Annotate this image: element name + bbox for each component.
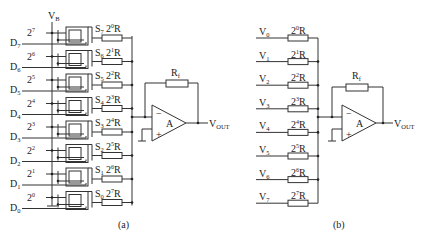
opamp-label-base: A	[356, 118, 364, 129]
data-input-label-sub: 7	[17, 42, 21, 49]
data-input-label-sub: 1	[17, 183, 20, 190]
resistor-label: 21R	[106, 47, 121, 58]
feedback-resistor-label: Rf	[352, 70, 362, 82]
data-input-label: D3	[10, 131, 20, 143]
switch-label-sub: 2	[101, 146, 104, 153]
junction-dot	[317, 131, 320, 134]
resistor-icon	[166, 80, 188, 87]
resistor-icon	[288, 153, 308, 159]
voltage-input-label: V0	[259, 26, 269, 38]
feedback-resistor-label: Rf	[171, 67, 181, 79]
switch-label-sub: 1	[101, 169, 104, 176]
weight-label: 24	[27, 98, 35, 109]
data-input-label-sub: 0	[17, 207, 20, 214]
resistor-icon	[102, 35, 122, 41]
data-input-label: D1	[10, 178, 20, 190]
resistor-icon	[102, 200, 122, 206]
resistor-label-base: R	[299, 96, 306, 107]
resistor-label: 25R	[106, 141, 121, 152]
resistor-label-base: R	[114, 164, 121, 175]
junction-dot	[131, 178, 134, 181]
data-input-label: D5	[10, 84, 20, 96]
junction-dot	[131, 131, 134, 134]
opamp-inverting-sign: −	[346, 108, 352, 119]
data-input-label: D7	[10, 37, 21, 49]
junction-dot	[382, 122, 385, 125]
junction-dot	[131, 116, 134, 119]
data-input-label-base: D	[10, 84, 17, 95]
voltage-input-label-sub: 0	[266, 31, 269, 38]
figure-a-caption-base: (a)	[118, 219, 129, 231]
voltage-input-label: V2	[259, 73, 269, 85]
junction-dot	[51, 55, 54, 58]
vout-label-sub: OUT	[401, 123, 414, 130]
junction-dot	[317, 178, 320, 181]
resistor-label: 22R	[106, 70, 121, 81]
resistor-icon	[102, 153, 122, 159]
voltage-input-label-sub: 6	[266, 173, 270, 180]
opamp-inverting-sign-base: −	[346, 108, 352, 119]
voltage-input-label: V5	[259, 144, 269, 156]
data-input-label-sub: 3	[17, 136, 20, 143]
resistor-label-base: R	[299, 72, 306, 83]
opamp-noninverting-sign-base: +	[156, 129, 162, 140]
junction-dot	[317, 84, 320, 87]
resistor-label-base: R	[114, 141, 121, 152]
resistor-icon	[288, 82, 308, 88]
resistor-label: 21R	[291, 49, 306, 60]
data-input-label-base: D	[10, 202, 17, 213]
voltage-input-label-sub: 4	[266, 125, 270, 132]
data-input-label-base: D	[10, 108, 17, 119]
junction-dot	[51, 149, 54, 152]
data-input-label-sub: 2	[17, 160, 20, 167]
junction-dot	[51, 79, 54, 82]
resistor-label-base: R	[114, 47, 121, 58]
switch-label-sub: 4	[101, 99, 105, 106]
vout-label: VOUT	[209, 118, 230, 130]
opamp-noninverting-sign: +	[156, 129, 162, 140]
resistor-icon	[102, 59, 122, 65]
data-input-label: D2	[10, 155, 20, 167]
resistor-label-base: R	[299, 49, 306, 60]
resistor-label: 22R	[291, 72, 306, 83]
weight-label-sup: 6	[32, 51, 35, 57]
weight-label-sup: 3	[32, 121, 35, 127]
resistor-label-base: R	[114, 117, 121, 128]
resistor-icon	[288, 200, 308, 206]
resistor-label: 25R	[291, 143, 306, 154]
switch-label: S3	[95, 117, 104, 129]
opamp-label-base: A	[166, 118, 174, 129]
data-input-label: D0	[10, 202, 20, 214]
weight-label-sup: 5	[32, 74, 35, 80]
voltage-input-label-sub: 3	[266, 102, 269, 109]
switch-label: S6	[95, 47, 105, 59]
data-input-label-base: D	[10, 178, 17, 189]
data-input-label-base: D	[10, 37, 17, 48]
switch-label-sub: 6	[101, 52, 105, 59]
weight-label: 20	[27, 192, 35, 203]
resistor-label-base: R	[299, 190, 306, 201]
weight-label: 22	[27, 145, 35, 156]
weight-label: 23	[27, 121, 35, 132]
resistor-icon	[102, 176, 122, 182]
voltage-input-label: V4	[259, 120, 270, 132]
vb-label: VB	[48, 10, 60, 22]
junction-dot	[51, 126, 54, 129]
weight-label-sup: 1	[32, 168, 35, 174]
resistor-icon	[102, 106, 122, 112]
switch-label: S0	[95, 188, 104, 200]
switch-label-sub: 3	[101, 122, 104, 129]
resistor-icon	[288, 177, 308, 183]
resistor-label-base: R	[299, 167, 306, 178]
data-input-label-base: D	[10, 155, 17, 166]
switch-label-sub: 5	[101, 75, 104, 82]
opamp-label: A	[166, 118, 174, 129]
resistor-label: 20R	[106, 23, 121, 34]
feedback-resistor-label-sub: f	[178, 72, 181, 79]
weight-label-sup: 2	[32, 145, 35, 151]
junction-dot	[197, 122, 200, 125]
figure-a-switched-dac: VB27S720RD726S621RD625S522RD524S423RD423…	[10, 10, 230, 231]
junction-dot	[131, 154, 134, 157]
data-input-label-base: D	[10, 131, 17, 142]
resistor-icon	[288, 106, 308, 112]
